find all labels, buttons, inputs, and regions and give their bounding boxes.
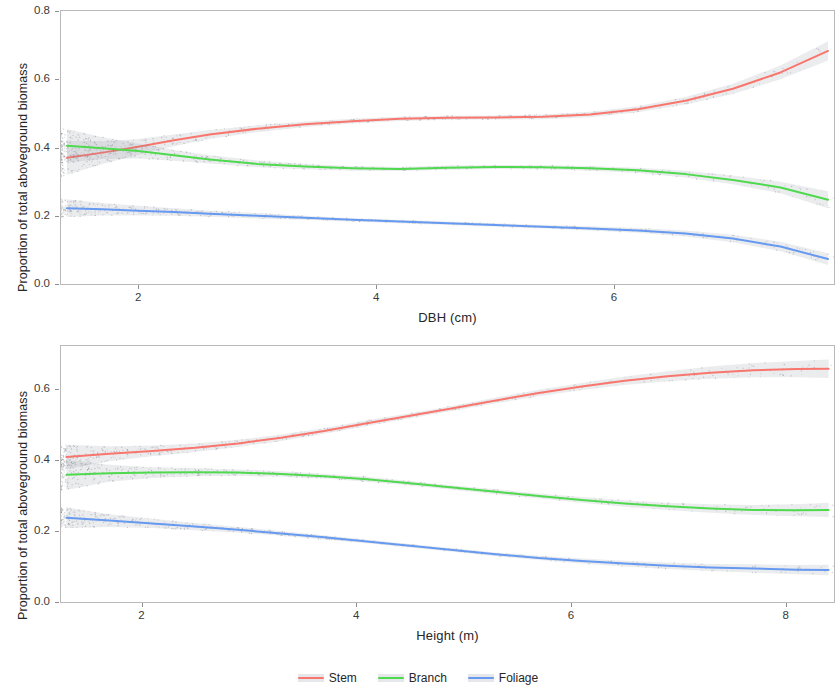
y-tick-label: 0.4 <box>22 453 50 465</box>
legend-label: Foliage <box>499 672 538 684</box>
series-line-stem <box>66 369 828 457</box>
confidence-band-speckle <box>60 198 834 260</box>
panel-height-plot-area <box>60 345 835 603</box>
legend-label: Branch <box>409 672 447 684</box>
panel-height-y-axis-title: Proportion of total aboveground biomass <box>16 391 30 620</box>
y-tick-label: 0.0 <box>22 277 50 289</box>
legend-key-stem-icon <box>298 673 324 683</box>
panel-dbh-y-axis-title: Proportion of total aboveground biomass <box>16 63 30 292</box>
y-tick-label: 0.6 <box>22 72 50 84</box>
y-tick-label: 0.2 <box>22 524 50 536</box>
legend-item-branch[interactable]: Branch <box>372 672 453 684</box>
legend-label: Stem <box>329 672 357 684</box>
y-tick-mark <box>55 460 59 461</box>
y-tick-label: 0.6 <box>22 382 50 394</box>
legend-key-foliage-icon <box>468 673 494 683</box>
y-tick-mark <box>55 216 59 217</box>
legend-item-stem[interactable]: Stem <box>292 672 363 684</box>
y-tick-mark <box>55 11 59 12</box>
panel-dbh-plot-area <box>60 10 835 285</box>
y-tick-mark <box>55 602 59 603</box>
legend-item-foliage[interactable]: Foliage <box>462 672 544 684</box>
x-tick-label: 8 <box>832 291 836 303</box>
panel-height-curves <box>61 346 834 602</box>
y-tick-label: 0.2 <box>22 209 50 221</box>
y-tick-mark <box>55 148 59 149</box>
x-tick-mark <box>356 603 357 607</box>
series-legend: StemBranchFoliage <box>0 672 836 684</box>
x-tick-mark <box>376 285 377 289</box>
x-tick-label: 4 <box>336 609 376 621</box>
biomass-proportion-figure: Proportion of total aboveground biomass … <box>0 0 836 699</box>
legend-key-branch-icon <box>378 673 404 683</box>
confidence-band <box>66 507 828 575</box>
x-tick-label: 2 <box>118 291 158 303</box>
x-tick-mark <box>571 603 572 607</box>
x-tick-mark <box>786 603 787 607</box>
x-tick-label: 6 <box>594 291 634 303</box>
y-tick-mark <box>55 389 59 390</box>
y-tick-label: 0.0 <box>22 595 50 607</box>
x-tick-label: 6 <box>551 609 591 621</box>
panel-dbh-curves <box>61 11 834 284</box>
series-line-foliage <box>66 518 828 570</box>
x-tick-mark <box>614 285 615 289</box>
x-tick-label: 4 <box>356 291 396 303</box>
y-tick-mark <box>55 531 59 532</box>
y-tick-label: 0.4 <box>22 141 50 153</box>
y-tick-mark <box>55 79 59 80</box>
x-tick-label: 8 <box>766 609 806 621</box>
x-tick-mark <box>142 603 143 607</box>
panel-dbh-x-axis-title: DBH (cm) <box>60 310 835 325</box>
y-tick-label: 0.8 <box>22 4 50 16</box>
x-tick-mark <box>138 285 139 289</box>
panel-height-x-axis-title: Height (m) <box>60 628 835 643</box>
x-tick-label: 2 <box>122 609 162 621</box>
confidence-band <box>67 199 828 265</box>
y-tick-mark <box>55 284 59 285</box>
confidence-band <box>66 360 828 470</box>
